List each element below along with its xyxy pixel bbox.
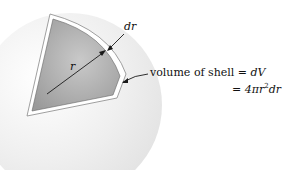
dr-label: dr <box>124 20 136 33</box>
shell-text: volume of shell <box>150 66 234 79</box>
eq1-sign: = <box>238 66 247 79</box>
eq1-rhs: dV <box>251 66 266 79</box>
shell-formula-line2: = 4πr2dr <box>232 82 281 96</box>
shell-formula-line1: volume of shell = dV <box>150 66 266 79</box>
eq2-dr: dr <box>269 83 281 96</box>
eq2-coef: 4π <box>245 83 259 96</box>
r-label: r <box>70 60 75 73</box>
eq2-sign: = <box>232 83 241 96</box>
